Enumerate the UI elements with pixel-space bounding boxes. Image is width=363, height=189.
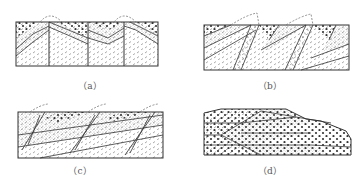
panel-a-diagram [0,0,181,75]
panel-d-label: （d） [250,164,290,177]
panel-a-label: （a） [70,79,110,92]
panel-d-diagram [181,95,363,170]
panel-b-diagram [181,0,363,75]
panel-c-diagram [0,95,181,170]
panel-c-label: （c） [60,164,100,177]
panel-b-label: （b） [250,79,290,92]
